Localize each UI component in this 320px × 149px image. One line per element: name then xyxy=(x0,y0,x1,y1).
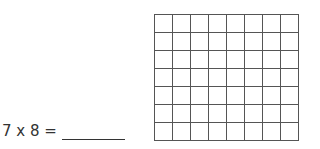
grid-cell xyxy=(209,15,227,33)
grid-cell xyxy=(245,15,263,33)
grid-cell xyxy=(209,123,227,141)
grid-cell xyxy=(155,87,173,105)
grid-cell xyxy=(209,51,227,69)
grid-cell xyxy=(209,105,227,123)
grid-cell xyxy=(263,87,281,105)
grid-cell xyxy=(245,123,263,141)
grid-cell xyxy=(173,15,191,33)
grid-cell xyxy=(263,69,281,87)
grid-cell xyxy=(191,123,209,141)
grid-cell xyxy=(227,87,245,105)
grid-cell xyxy=(155,15,173,33)
grid-cell xyxy=(191,69,209,87)
grid-cell xyxy=(281,105,299,123)
grid-cell xyxy=(263,105,281,123)
grid-cell xyxy=(173,69,191,87)
grid-row xyxy=(155,15,299,33)
grid-cell xyxy=(227,105,245,123)
grid-cell xyxy=(191,51,209,69)
grid-cell xyxy=(209,87,227,105)
grid-cell xyxy=(155,105,173,123)
grid-cell xyxy=(245,33,263,51)
grid-cell xyxy=(173,123,191,141)
grid-cell xyxy=(155,123,173,141)
grid-cell xyxy=(281,15,299,33)
grid-cell xyxy=(263,33,281,51)
multiplication-problem: 7 x 8 = xyxy=(2,122,125,140)
grid-cell xyxy=(281,51,299,69)
grid-cell xyxy=(191,15,209,33)
grid-row xyxy=(155,105,299,123)
grid-cell xyxy=(191,33,209,51)
grid-cell xyxy=(245,51,263,69)
grid-cell xyxy=(263,123,281,141)
grid-cell xyxy=(281,123,299,141)
grid-row xyxy=(155,33,299,51)
grid-cell xyxy=(209,33,227,51)
grid-cell xyxy=(245,87,263,105)
grid-cell xyxy=(281,87,299,105)
grid-cell xyxy=(263,15,281,33)
grid-cell xyxy=(209,69,227,87)
grid-cell xyxy=(173,51,191,69)
grid-cell xyxy=(173,87,191,105)
grid-cell xyxy=(191,105,209,123)
grid-cell xyxy=(227,69,245,87)
grid-cell xyxy=(191,87,209,105)
grid-row xyxy=(155,123,299,141)
grid-cell xyxy=(227,33,245,51)
expression-text: 7 x 8 = xyxy=(2,122,57,140)
grid-cell xyxy=(155,33,173,51)
answer-blank[interactable] xyxy=(62,123,125,140)
grid-cell xyxy=(173,105,191,123)
grid-cell xyxy=(155,51,173,69)
grid-cell xyxy=(173,33,191,51)
grid-cell xyxy=(227,51,245,69)
grid-cell xyxy=(281,69,299,87)
array-grid xyxy=(154,14,299,141)
grid-cell xyxy=(245,69,263,87)
grid-cell xyxy=(227,123,245,141)
grid-cell xyxy=(245,105,263,123)
grid-row xyxy=(155,87,299,105)
grid-row xyxy=(155,69,299,87)
grid-cell xyxy=(263,51,281,69)
grid-cell xyxy=(281,33,299,51)
grid-cell xyxy=(227,15,245,33)
grid-cell xyxy=(155,69,173,87)
grid-row xyxy=(155,51,299,69)
